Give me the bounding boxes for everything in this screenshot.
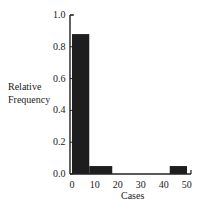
x-tick-label: 50 — [182, 180, 192, 190]
x-tick-label: 0 — [69, 180, 74, 190]
y-tick-label: 0.2 — [53, 137, 66, 147]
x-tick-label: 20 — [113, 180, 123, 190]
y-tick-label: 1.0 — [53, 10, 66, 20]
y-tick-label: 0.8 — [53, 42, 66, 52]
histogram-bar — [72, 34, 89, 174]
histogram-chart: Relative Frequency Cases 0.00.20.40.60.8… — [0, 0, 203, 211]
y-axis-label-line-2: Frequency — [8, 93, 50, 106]
y-tick-label: 0.6 — [53, 74, 66, 84]
x-tick-label: 10 — [90, 180, 100, 190]
histogram-bar — [170, 166, 187, 174]
x-axis-label: Cases — [121, 190, 144, 201]
x-tick-label: 40 — [159, 180, 169, 190]
y-tick-label: 0.0 — [53, 169, 66, 179]
y-axis-label-line-1: Relative — [8, 80, 50, 93]
histogram-bar — [89, 166, 112, 174]
y-tick-label: 0.4 — [53, 105, 66, 115]
x-tick-label: 30 — [136, 180, 146, 190]
y-axis-label: Relative Frequency — [8, 80, 50, 106]
